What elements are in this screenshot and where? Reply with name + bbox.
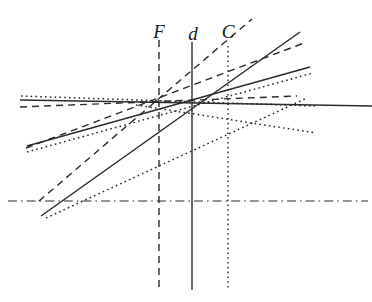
axis-label-F: F	[153, 22, 165, 41]
series-line-dotted-shallow-rising	[27, 73, 313, 152]
series-line-dashed-steep-rising	[39, 19, 252, 201]
series-line-dotted-steep-rising	[46, 98, 307, 218]
axis-label-C: C	[222, 22, 235, 41]
axis-label-d: d	[188, 24, 198, 43]
vertical-reference-layer	[159, 40, 228, 290]
series-layer	[20, 19, 372, 218]
series-line-solid-shallow-rising	[27, 67, 310, 146]
line-diagram-figure: F d C	[0, 0, 372, 302]
series-line-solid-steep-rising	[41, 32, 300, 216]
series-line-dashed-shallow-rising	[26, 43, 304, 148]
diagram-canvas	[0, 0, 372, 302]
